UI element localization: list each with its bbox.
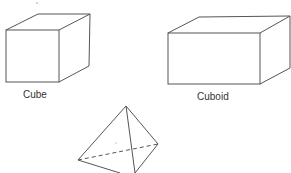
stray-mark — [36, 2, 37, 3]
pyramid-shape — [78, 106, 158, 173]
cube-label: Cube — [23, 89, 47, 100]
solid-shapes-diagram — [0, 0, 291, 173]
cube-shape — [6, 14, 90, 82]
cuboid-shape — [168, 16, 290, 84]
cuboid-label: Cuboid — [197, 91, 229, 102]
